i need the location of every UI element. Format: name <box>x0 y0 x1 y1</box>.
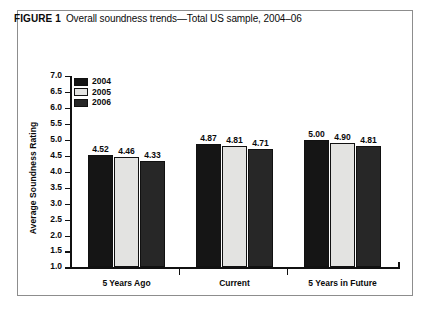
bar-value-label: 5.00 <box>308 129 325 139</box>
x-axis-group-tick <box>287 269 288 275</box>
y-axis-tick-label: 5.0 <box>50 134 62 144</box>
bar-2005-5-years-ago: 4.46 <box>114 157 139 267</box>
y-axis-tick-label: 6.5 <box>50 86 62 96</box>
plot-area: 7.06.56.05.55.04.54.03.53.02.52.01.51.04… <box>70 76 400 269</box>
y-axis-title: Average Soundness Rating <box>26 108 40 248</box>
bar-value-label: 4.87 <box>200 133 217 143</box>
y-axis-tick-label: 6.0 <box>50 102 62 112</box>
bar-2004-5-years-ago: 4.52 <box>88 155 113 267</box>
y-axis-tick-label: 3.5 <box>50 182 62 192</box>
y-axis-tick-label: 3.0 <box>50 198 62 208</box>
y-axis-tick: 4.5 <box>65 156 70 157</box>
y-axis-tick: 1.0 <box>65 267 70 268</box>
legend-swatch-2005 <box>74 88 88 96</box>
y-axis-title-label: Average Soundness Rating <box>28 122 38 235</box>
bar-2006-5-years-in-future: 4.81 <box>356 146 381 268</box>
bar-value-label: 4.71 <box>252 138 269 148</box>
legend-swatch-2004 <box>74 78 88 86</box>
y-axis-tick: 1.5 <box>65 251 70 252</box>
y-axis-line <box>70 76 72 269</box>
y-axis-tick: 4.0 <box>65 172 70 173</box>
bar-value-label: 4.81 <box>360 135 377 145</box>
y-axis-tick: 2.5 <box>65 220 70 221</box>
chart-legend: 200420052006 <box>74 77 111 107</box>
y-axis-tick-label: 4.5 <box>50 150 62 160</box>
legend-label-2004: 2004 <box>92 77 111 86</box>
y-axis-tick: 7.0 <box>65 76 70 77</box>
x-axis-line <box>70 267 400 269</box>
legend-swatch-2006 <box>74 99 88 107</box>
x-axis-category-label: 5 Years Ago <box>102 278 150 288</box>
y-axis-tick-label: 2.5 <box>50 214 62 224</box>
bar-value-label: 4.33 <box>144 150 161 160</box>
y-axis-tick-label: 7.0 <box>50 70 62 80</box>
legend-item-2004: 2004 <box>74 77 111 86</box>
bar-2004-current: 4.87 <box>196 144 221 267</box>
y-axis-tick-label: 2.0 <box>50 230 62 240</box>
y-axis-tick: 3.5 <box>65 188 70 189</box>
bar-value-label: 4.90 <box>334 132 351 142</box>
y-axis-tick: 3.0 <box>65 204 70 205</box>
bar-2006-current: 4.71 <box>248 149 273 267</box>
y-axis-tick-label: 1.5 <box>50 245 62 255</box>
x-axis-group-tick <box>179 269 180 275</box>
x-axis-endcap <box>398 262 400 269</box>
figure-screenshot: FIGURE 1Overall soundness trends—Total U… <box>0 0 427 311</box>
y-axis-tick: 6.0 <box>65 108 70 109</box>
figure-caption-text: Overall soundness trends—Total US sample… <box>66 13 302 24</box>
y-axis-tick: 6.5 <box>65 92 70 93</box>
bar-value-label: 4.81 <box>226 135 243 145</box>
y-axis-tick-label: 1.0 <box>50 261 62 271</box>
y-axis-tick-label: 4.0 <box>50 166 62 176</box>
bar-2006-5-years-ago: 4.33 <box>140 161 165 267</box>
y-axis-tick: 5.5 <box>65 124 70 125</box>
y-axis-tick-label: 5.5 <box>50 118 62 128</box>
legend-item-2006: 2006 <box>74 98 111 107</box>
bar-2005-5-years-in-future: 4.90 <box>330 143 355 267</box>
legend-label-2006: 2006 <box>92 98 111 107</box>
legend-item-2005: 2005 <box>74 88 111 97</box>
y-axis-tick: 2.0 <box>65 236 70 237</box>
bar-value-label: 4.46 <box>118 146 135 156</box>
bar-2004-5-years-in-future: 5.00 <box>304 140 329 268</box>
figure-caption: FIGURE 1Overall soundness trends—Total U… <box>14 13 302 25</box>
x-axis-category-label: 5 Years in Future <box>308 278 376 288</box>
x-axis-category-label: Current <box>219 278 250 288</box>
legend-label-2005: 2005 <box>92 88 111 97</box>
bar-2005-current: 4.81 <box>222 146 247 268</box>
figure-number: FIGURE 1 <box>14 13 61 24</box>
bar-value-label: 4.52 <box>92 144 109 154</box>
y-axis-tick: 5.0 <box>65 140 70 141</box>
